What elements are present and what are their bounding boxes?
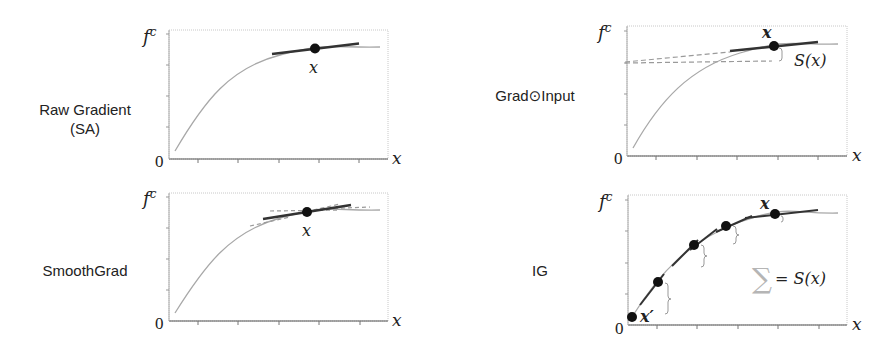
diagram-canvas: x fc 0 x x S(x) fc 0 x — [0, 0, 877, 362]
input-point — [769, 41, 779, 51]
y-axis-label: fc — [141, 187, 157, 209]
panel-smoothgrad: x fc 0 x — [141, 187, 402, 333]
point-label: x — [302, 221, 311, 240]
plot-frame — [169, 30, 388, 159]
x-axis-label: x — [852, 145, 862, 165]
function-curve — [175, 46, 380, 151]
point-label: x — [309, 58, 318, 77]
x-ticks — [656, 156, 818, 160]
x-axis-label: x — [392, 310, 402, 330]
panel-ig: x x′ ∑ = S(x) fc 0 x — [597, 190, 862, 338]
panel-raw-gradient: x fc 0 x — [141, 25, 402, 171]
y-axis-label: fc — [141, 25, 157, 47]
x-axis-label: x — [392, 148, 402, 168]
sum-symbol: ∑ — [752, 262, 772, 295]
y-axis-label: fc — [597, 190, 613, 212]
sample-point — [721, 221, 731, 231]
plot-frame — [627, 26, 847, 156]
baseline-label: x′ — [639, 307, 655, 326]
origin-label: 0 — [615, 319, 624, 338]
baseline-point — [627, 312, 637, 322]
origin-label: 0 — [614, 149, 623, 168]
input-point — [302, 207, 312, 217]
y-axis-label: fc — [596, 21, 612, 43]
origin-label: 0 — [155, 152, 164, 171]
score-bracket — [779, 48, 782, 61]
tangent-extension-dashed — [625, 52, 730, 62]
point-label: x — [759, 194, 770, 213]
input-point — [770, 209, 780, 219]
input-point — [310, 44, 320, 54]
plot-frame — [628, 195, 847, 325]
sample-point — [653, 277, 663, 287]
sample-point — [689, 240, 699, 250]
plot-frame — [169, 193, 388, 321]
x-ticks — [198, 159, 359, 163]
baseline-dashed — [625, 61, 772, 63]
x-axis-label: x — [852, 314, 862, 334]
sum-equals-score: = S(x) — [775, 269, 826, 288]
origin-label: 0 — [155, 314, 164, 333]
panel-grad-input: x S(x) fc 0 x — [596, 21, 862, 168]
score-label: S(x) — [794, 51, 826, 70]
point-label: x — [761, 23, 772, 42]
function-curve — [175, 209, 380, 313]
